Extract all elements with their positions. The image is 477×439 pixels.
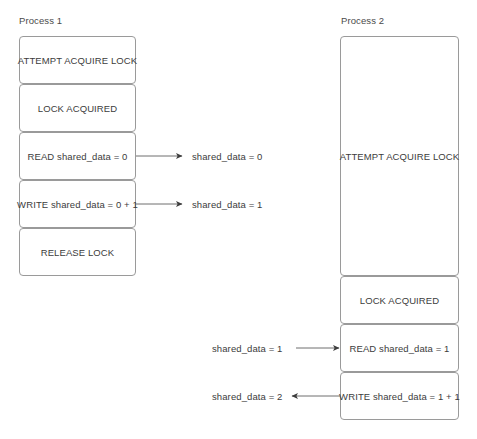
p2-step-1[interactable]: LOCK ACQUIRED bbox=[340, 276, 459, 324]
arrow-label-shared-data-2: shared_data = 2 bbox=[212, 391, 282, 402]
p1-step-3[interactable]: WRITE shared_data = 0 + 1 bbox=[19, 180, 136, 228]
arrow-label-shared-data-1-p2: shared_data = 1 bbox=[212, 343, 282, 354]
process-1-title: Process 1 bbox=[19, 15, 62, 26]
p2-step-1-label: LOCK ACQUIRED bbox=[360, 295, 439, 306]
arrow-label-shared-data-0: shared_data = 0 bbox=[192, 151, 262, 162]
p1-step-0[interactable]: ATTEMPT ACQUIRE LOCK bbox=[19, 36, 136, 84]
p2-step-2[interactable]: READ shared_data = 1 bbox=[340, 324, 459, 372]
p1-step-4-label: RELEASE LOCK bbox=[41, 247, 115, 258]
p2-step-0-label: ATTEMPT ACQUIRE LOCK bbox=[340, 151, 459, 162]
p1-step-3-label: WRITE shared_data = 0 + 1 bbox=[17, 199, 138, 210]
process-2-title: Process 2 bbox=[341, 15, 384, 26]
p2-step-0[interactable]: ATTEMPT ACQUIRE LOCK bbox=[340, 36, 459, 276]
p2-step-3-label: WRITE shared_data = 1 + 1 bbox=[339, 391, 460, 402]
p2-step-2-label: READ shared_data = 1 bbox=[350, 343, 450, 354]
p1-step-2-label: READ shared_data = 0 bbox=[28, 151, 128, 162]
p1-step-4[interactable]: RELEASE LOCK bbox=[19, 228, 136, 276]
p1-step-1[interactable]: LOCK ACQUIRED bbox=[19, 84, 136, 132]
arrow-label-shared-data-1-p1: shared_data = 1 bbox=[192, 199, 262, 210]
p1-step-2[interactable]: READ shared_data = 0 bbox=[19, 132, 136, 180]
diagram-canvas: Process 1 Process 2 ATTEMPT ACQUIRE LOCK… bbox=[0, 0, 477, 439]
p2-step-3[interactable]: WRITE shared_data = 1 + 1 bbox=[340, 372, 459, 420]
p1-step-0-label: ATTEMPT ACQUIRE LOCK bbox=[18, 55, 137, 66]
p1-step-1-label: LOCK ACQUIRED bbox=[38, 103, 117, 114]
